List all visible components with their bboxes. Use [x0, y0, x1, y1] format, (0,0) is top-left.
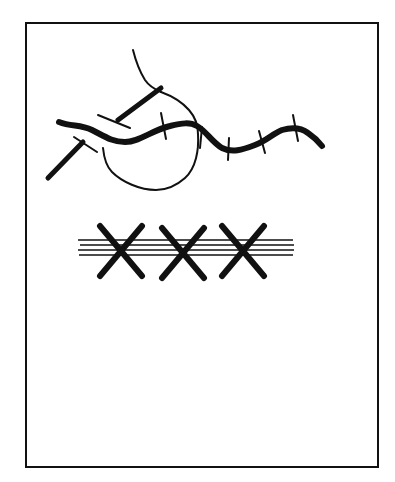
x-mark-3 [222, 226, 264, 276]
sketch-map-figure [0, 0, 395, 482]
crossing-3 [228, 138, 229, 160]
upper-road [118, 88, 161, 120]
north-track [133, 50, 161, 92]
river-line [59, 122, 322, 151]
sketch-map-canvas [0, 0, 395, 482]
lower-road [48, 142, 83, 178]
x-mark-1 [100, 226, 142, 276]
x-marks-group [100, 226, 264, 278]
x-mark-2 [162, 228, 204, 278]
roads-group [48, 88, 161, 178]
